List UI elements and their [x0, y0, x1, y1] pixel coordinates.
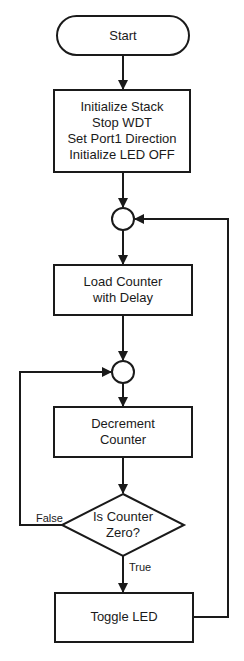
load-label: Load Counter with Delay: [54, 274, 192, 306]
init-line-3: Set Port1 Direction: [54, 131, 190, 147]
decrement-label: Decrement Counter: [54, 416, 192, 448]
decision-line-2: Zero?: [62, 525, 184, 541]
true-branch-label: True: [129, 561, 151, 573]
false-branch-label: False: [36, 512, 63, 524]
toggle-label: Toggle LED: [55, 609, 193, 625]
decision-line-1: Is Counter: [62, 509, 184, 525]
init-line-4: Initialize LED OFF: [54, 147, 190, 163]
junction-1: [112, 208, 134, 230]
start-label: Start: [57, 28, 189, 44]
load-line-1: Load Counter: [54, 274, 192, 290]
load-line-2: with Delay: [54, 290, 192, 306]
init-label: Initialize Stack Stop WDT Set Port1 Dire…: [54, 99, 190, 163]
decision-label: Is Counter Zero?: [62, 509, 184, 541]
decrement-line-1: Decrement: [54, 416, 192, 432]
junction-2: [112, 361, 134, 383]
decrement-line-2: Counter: [54, 432, 192, 448]
init-line-1: Initialize Stack: [54, 99, 190, 115]
init-line-2: Stop WDT: [54, 115, 190, 131]
